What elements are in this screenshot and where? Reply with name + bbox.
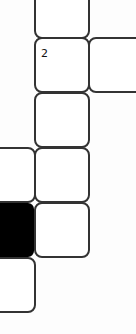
black-block-cell [0,203,34,257]
clue-number: 2 [41,47,48,60]
grid-cell[interactable] [34,147,90,203]
grid-cell[interactable] [34,202,90,258]
grid-cell[interactable] [34,92,90,148]
grid-cell[interactable] [34,0,90,39]
grid-cell-numbered[interactable]: 2 [34,37,90,93]
grid-cell[interactable] [0,257,36,313]
grid-cell[interactable] [88,37,136,93]
grid-cell[interactable] [0,147,36,203]
